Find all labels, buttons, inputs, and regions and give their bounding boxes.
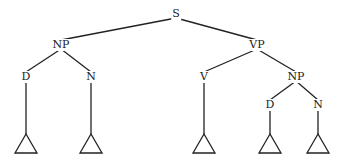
node-d-subject: D <box>21 71 32 83</box>
leaf-triangle-icon <box>15 134 37 153</box>
node-s: S <box>171 8 181 20</box>
tree-edge <box>61 49 91 72</box>
node-d-object: D <box>265 99 276 111</box>
tree-edge <box>61 18 176 40</box>
syntax-tree-diagram: S NP VP D N V NP D N <box>0 0 341 168</box>
leaf-triangle-icon <box>80 134 102 153</box>
node-n-object: N <box>312 99 324 111</box>
tree-edge <box>204 49 257 72</box>
tree-edge <box>257 49 296 72</box>
leaf-triangle-icon <box>259 134 281 153</box>
node-vp: VP <box>248 39 265 51</box>
tree-edges-and-triangles <box>0 0 341 168</box>
tree-edge <box>176 18 257 40</box>
leaf-triangle-icon <box>193 134 215 153</box>
node-np-object: NP <box>286 71 305 83</box>
node-np-subject: NP <box>51 39 70 51</box>
tree-edge <box>26 49 61 72</box>
node-n-subject: N <box>85 71 97 83</box>
leaf-triangle-icon <box>307 134 329 153</box>
node-v: V <box>199 71 209 83</box>
